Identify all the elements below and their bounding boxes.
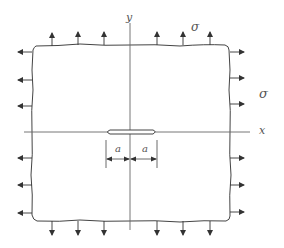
left-stress-arrows bbox=[18, 52, 32, 213]
crack-plate-diagram bbox=[0, 0, 284, 248]
crack-half-length-label-right: a bbox=[142, 144, 148, 154]
y-axis-label: y bbox=[126, 12, 132, 23]
sigma-label-right: σ bbox=[259, 87, 268, 100]
sigma-label-top: σ bbox=[191, 21, 199, 33]
x-axis-label: x bbox=[259, 125, 265, 136]
crack-half-length-label-left: a bbox=[115, 144, 121, 154]
crack-dimension bbox=[106, 140, 157, 168]
bottom-stress-arrows bbox=[52, 221, 210, 235]
crack bbox=[108, 130, 156, 134]
